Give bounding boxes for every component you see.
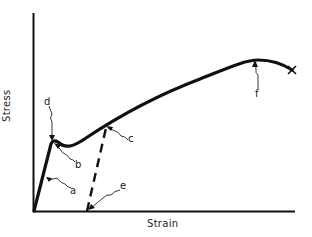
label-e: e [120,181,126,191]
leader-e [91,190,120,208]
label-c: c [128,134,134,144]
leader-b [57,146,75,162]
y-axis-title: Stress [2,89,12,122]
stress-strain-diagram [0,0,312,237]
leader-a [49,178,71,188]
label-b: b [75,160,81,170]
leader-d [49,106,52,138]
unloading-dashed-line [87,128,106,211]
x-axis-title: Strain [147,219,178,229]
label-f: f [255,89,259,99]
label-d: d [44,97,50,107]
label-a: a [70,186,76,196]
arrowhead-c-icon [106,126,113,131]
